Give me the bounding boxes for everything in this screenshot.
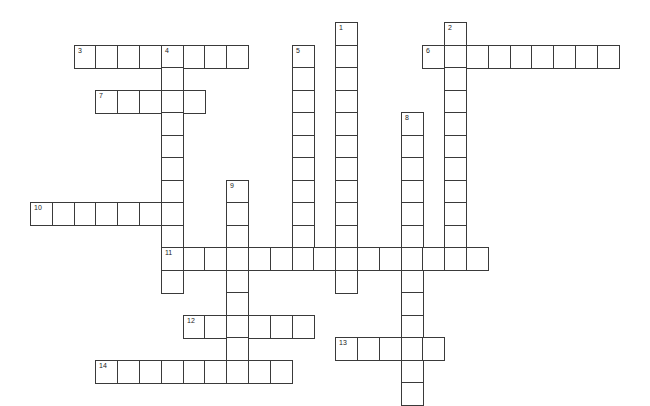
crossword-cell[interactable]: [270, 315, 293, 339]
crossword-cell[interactable]: 5: [292, 45, 315, 69]
crossword-cell[interactable]: 1: [335, 22, 358, 46]
crossword-cell[interactable]: [401, 292, 424, 316]
crossword-cell[interactable]: [335, 157, 358, 181]
crossword-cell[interactable]: [183, 360, 206, 384]
crossword-cell[interactable]: [248, 247, 271, 271]
crossword-cell[interactable]: [401, 225, 424, 249]
crossword-cell[interactable]: [444, 247, 467, 271]
crossword-cell[interactable]: [292, 112, 315, 136]
crossword-cell[interactable]: [226, 45, 249, 69]
crossword-cell[interactable]: [161, 360, 184, 384]
crossword-cell[interactable]: 10: [30, 202, 53, 226]
crossword-cell[interactable]: [183, 90, 206, 114]
crossword-cell[interactable]: [401, 157, 424, 181]
crossword-cell[interactable]: 4: [161, 45, 184, 69]
crossword-cell[interactable]: [379, 247, 402, 271]
crossword-cell[interactable]: [248, 315, 271, 339]
crossword-cell[interactable]: 14: [95, 360, 118, 384]
crossword-cell[interactable]: 3: [74, 45, 97, 69]
crossword-cell[interactable]: [335, 180, 358, 204]
crossword-cell[interactable]: [226, 225, 249, 249]
crossword-cell[interactable]: 11: [161, 247, 184, 271]
crossword-cell[interactable]: [139, 360, 162, 384]
crossword-cell[interactable]: [422, 247, 445, 271]
crossword-cell[interactable]: [335, 90, 358, 114]
crossword-cell[interactable]: [335, 67, 358, 91]
crossword-cell[interactable]: [292, 135, 315, 159]
crossword-cell[interactable]: [335, 247, 358, 271]
crossword-cell[interactable]: [204, 315, 227, 339]
crossword-cell[interactable]: [335, 45, 358, 69]
crossword-cell[interactable]: 8: [401, 112, 424, 136]
crossword-cell[interactable]: [183, 45, 206, 69]
crossword-cell[interactable]: 7: [95, 90, 118, 114]
crossword-cell[interactable]: [95, 45, 118, 69]
crossword-cell[interactable]: [117, 45, 140, 69]
crossword-cell[interactable]: [401, 270, 424, 294]
crossword-cell[interactable]: [488, 45, 511, 69]
crossword-cell[interactable]: [270, 247, 293, 271]
crossword-cell[interactable]: [444, 202, 467, 226]
crossword-cell[interactable]: 2: [444, 22, 467, 46]
crossword-cell[interactable]: [357, 247, 380, 271]
crossword-cell[interactable]: [248, 360, 271, 384]
crossword-cell[interactable]: [401, 180, 424, 204]
crossword-cell[interactable]: [335, 270, 358, 294]
crossword-cell[interactable]: [379, 337, 402, 361]
crossword-cell[interactable]: [553, 45, 576, 69]
crossword-cell[interactable]: [161, 135, 184, 159]
crossword-cell[interactable]: [292, 180, 315, 204]
crossword-cell[interactable]: [161, 180, 184, 204]
crossword-cell[interactable]: [270, 360, 293, 384]
crossword-cell[interactable]: [226, 292, 249, 316]
crossword-cell[interactable]: 12: [183, 315, 206, 339]
crossword-cell[interactable]: [161, 225, 184, 249]
crossword-cell[interactable]: [183, 247, 206, 271]
crossword-cell[interactable]: [510, 45, 533, 69]
crossword-cell[interactable]: [204, 45, 227, 69]
crossword-cell[interactable]: [204, 360, 227, 384]
crossword-cell[interactable]: [444, 45, 467, 69]
crossword-cell[interactable]: [52, 202, 75, 226]
crossword-cell[interactable]: [444, 135, 467, 159]
crossword-cell[interactable]: [292, 202, 315, 226]
crossword-cell[interactable]: [139, 90, 162, 114]
crossword-cell[interactable]: [139, 45, 162, 69]
crossword-cell[interactable]: [401, 382, 424, 406]
crossword-cell[interactable]: [226, 360, 249, 384]
crossword-cell[interactable]: [117, 360, 140, 384]
crossword-cell[interactable]: [444, 225, 467, 249]
crossword-cell[interactable]: 9: [226, 180, 249, 204]
crossword-cell[interactable]: [292, 67, 315, 91]
crossword-cell[interactable]: [139, 202, 162, 226]
crossword-cell[interactable]: [531, 45, 554, 69]
crossword-cell[interactable]: [401, 360, 424, 384]
crossword-cell[interactable]: [422, 337, 445, 361]
crossword-cell[interactable]: [161, 112, 184, 136]
crossword-cell[interactable]: [401, 247, 424, 271]
crossword-cell[interactable]: [161, 67, 184, 91]
crossword-cell[interactable]: [161, 157, 184, 181]
crossword-cell[interactable]: [335, 135, 358, 159]
crossword-cell[interactable]: 6: [422, 45, 445, 69]
crossword-cell[interactable]: [161, 202, 184, 226]
crossword-cell[interactable]: [292, 90, 315, 114]
crossword-cell[interactable]: [161, 90, 184, 114]
crossword-cell[interactable]: [313, 247, 336, 271]
crossword-cell[interactable]: [575, 45, 598, 69]
crossword-cell[interactable]: [226, 337, 249, 361]
crossword-cell[interactable]: [444, 67, 467, 91]
crossword-cell[interactable]: [466, 247, 489, 271]
crossword-cell[interactable]: [335, 202, 358, 226]
crossword-cell[interactable]: [161, 270, 184, 294]
crossword-cell[interactable]: [292, 247, 315, 271]
crossword-cell[interactable]: [226, 247, 249, 271]
crossword-cell[interactable]: [444, 180, 467, 204]
crossword-cell[interactable]: [335, 225, 358, 249]
crossword-cell[interactable]: [226, 270, 249, 294]
crossword-cell[interactable]: [204, 247, 227, 271]
crossword-cell[interactable]: [401, 315, 424, 339]
crossword-cell[interactable]: [444, 112, 467, 136]
crossword-cell[interactable]: [444, 90, 467, 114]
crossword-cell[interactable]: [226, 315, 249, 339]
